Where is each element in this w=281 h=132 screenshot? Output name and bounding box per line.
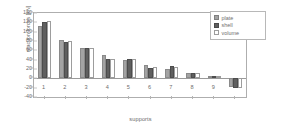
bar-volume (47, 21, 51, 78)
x-tick-label: 5 (127, 84, 130, 90)
y-tick-label: 80 (6, 37, 32, 43)
y-grid-stub (34, 59, 37, 60)
x-tick-label: 8 (190, 84, 193, 90)
bar-volume (132, 59, 136, 79)
y-grid-stub (34, 87, 37, 88)
y-tick-label: 100 (6, 28, 32, 34)
x-tick-label: 2 (63, 84, 66, 90)
bar-volume (174, 67, 178, 78)
legend-label: shell (222, 22, 233, 28)
legend-item[interactable]: shell (214, 22, 262, 29)
y-tick-label: 20 (6, 65, 32, 71)
legend-swatch-volume (214, 30, 219, 35)
x-tick-mark (213, 96, 214, 99)
x-tick-mark (86, 96, 87, 99)
x-tick-mark (44, 96, 45, 99)
x-tick-mark (65, 96, 66, 99)
y-tick-label: 0 (6, 74, 32, 80)
x-tick-label: 7 (169, 84, 172, 90)
legend-label: volume (222, 30, 239, 36)
legend-item[interactable]: volume (214, 29, 262, 36)
legend-item[interactable]: plate (214, 14, 262, 21)
bar-volume (110, 59, 114, 79)
x-tick-label: 4 (106, 84, 109, 90)
x-tick-label: 1 (42, 84, 45, 90)
legend-swatch-shell (214, 23, 219, 28)
y-tick-label: -20 (6, 84, 32, 90)
bar-volume (89, 48, 93, 78)
y-grid-stub (34, 78, 37, 79)
y-grid-stub (34, 31, 37, 32)
x-tick-mark (107, 96, 108, 99)
y-grid-stub (34, 50, 37, 51)
x-axis-title: supports (0, 116, 281, 122)
bar-volume (195, 73, 199, 78)
x-tick-mark (128, 96, 129, 99)
y-tick-label: 60 (6, 46, 32, 52)
x-tick-mark (234, 96, 235, 99)
x-tick-label: 9 (212, 84, 215, 90)
bar-volume (238, 78, 242, 87)
legend-label: plate (222, 15, 234, 21)
chart-legend: plateshellvolume (210, 11, 266, 40)
x-tick-mark (171, 96, 172, 99)
y-grid-stub (34, 97, 37, 98)
x-tick-label: 3 (84, 84, 87, 90)
x-tick-label: 6 (148, 84, 151, 90)
y-grid-stub (34, 13, 37, 14)
y-grid-stub (34, 69, 37, 70)
y-tick-label: 140 (6, 9, 32, 15)
y-grid-stub (34, 41, 37, 42)
y-tick-label: 40 (6, 56, 32, 62)
bar-volume (216, 76, 220, 78)
y-grid-stub (34, 22, 37, 23)
x-tick-mark (192, 96, 193, 99)
y-tick-label: 120 (6, 18, 32, 24)
y-tick-label: -40 (6, 93, 32, 99)
bar-volume (153, 67, 157, 78)
bar-volume (68, 41, 72, 78)
x-tick-mark (150, 96, 151, 99)
legend-swatch-plate (214, 15, 219, 20)
chart-figure: reaction forces [kN] 140120100806040200-… (0, 0, 281, 132)
